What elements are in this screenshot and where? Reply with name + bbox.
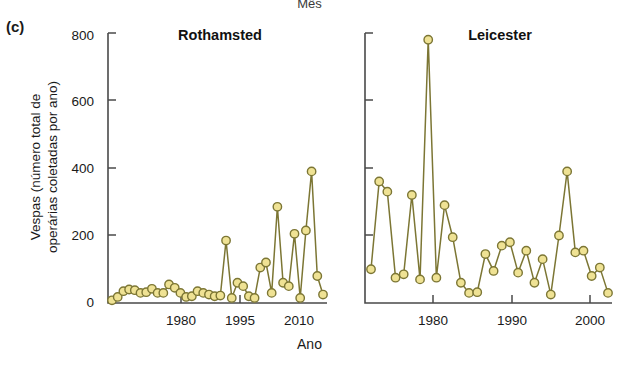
leicester-marker [530,279,538,287]
leicester-marker [465,289,473,297]
leicester-marker [587,272,595,280]
rothamsted-marker [319,290,327,298]
leicester-marker [506,238,514,246]
rothamsted-marker [307,167,315,175]
leicester-marker [563,167,571,175]
leicester-marker [383,187,391,195]
leicester-marker [596,263,604,271]
rothamsted-marker [285,282,293,290]
leicester-marker [547,290,555,298]
rothamsted-marker [159,289,167,297]
leicester-marker [522,246,530,254]
leicester-marker [473,288,481,296]
rothamsted-marker [313,272,321,280]
figure-panel-c: Mês (c) Vespas (número total de operária… [0,0,619,372]
leicester-marker [449,233,457,241]
leicester-marker [498,241,506,249]
leicester-marker [481,250,489,258]
leicester-marker [555,231,563,239]
leicester-marker [399,270,407,278]
rothamsted-marker [302,226,310,234]
leicester-marker [424,36,432,44]
series-rothamsted [108,167,327,304]
leicester-marker [579,246,587,254]
leicester-marker [457,279,465,287]
rothamsted-marker [222,236,230,244]
plot-svg [0,0,619,372]
leicester-marker [367,265,375,273]
leicester-marker [391,273,399,281]
leicester-axes [365,33,612,303]
leicester-marker [604,289,612,297]
leicester-marker [416,275,424,283]
leicester-marker [432,273,440,281]
leicester-marker [538,255,546,263]
rothamsted-marker [239,282,247,290]
rothamsted-marker [216,291,224,299]
leicester-marker [408,191,416,199]
leicester-marker [375,177,383,185]
leicester-marker [489,267,497,275]
rothamsted-marker [267,289,275,297]
rothamsted-marker [262,258,270,266]
rothamsted-marker [228,294,236,302]
rothamsted-marker [273,203,281,211]
leicester-marker [514,268,522,276]
rothamsted-marker [296,294,304,302]
series-leicester [367,36,612,299]
rothamsted-axes [108,33,327,303]
leicester-marker [571,248,579,256]
rothamsted-marker [250,294,258,302]
rothamsted-marker [290,230,298,238]
leicester-marker [440,201,448,209]
